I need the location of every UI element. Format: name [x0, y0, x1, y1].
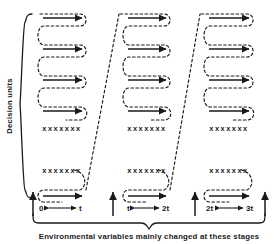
- ellipsis-row: xxxxxxx: [127, 166, 166, 175]
- caption-environmental-variables: Environmental variables mainly changed a…: [39, 232, 260, 241]
- decision-units-diagram: Decision units xxxxxxx xxxxxxx: [0, 0, 276, 244]
- stage-label-end-1: t: [79, 204, 82, 213]
- ellipsis-row: xxxxxxx: [42, 124, 81, 133]
- stage-label-end-2: 2t: [162, 204, 169, 213]
- stage-label-end-3: 3t: [246, 204, 253, 213]
- stage-label-start-3: 2t: [206, 204, 213, 213]
- stage-label-start-1: 0: [39, 204, 44, 213]
- axis-label-decision-units: Decision units: [5, 78, 14, 133]
- ellipsis-row: xxxxxxx: [127, 124, 166, 133]
- ellipsis-row: xxxxxxx: [209, 166, 248, 175]
- diagram-canvas: Decision units xxxxxxx xxxxxxx: [0, 0, 276, 244]
- ellipsis-row: xxxxxxx: [42, 166, 81, 175]
- stage-label-start-2: t: [127, 204, 130, 213]
- ellipsis-row: xxxxxxx: [209, 124, 248, 133]
